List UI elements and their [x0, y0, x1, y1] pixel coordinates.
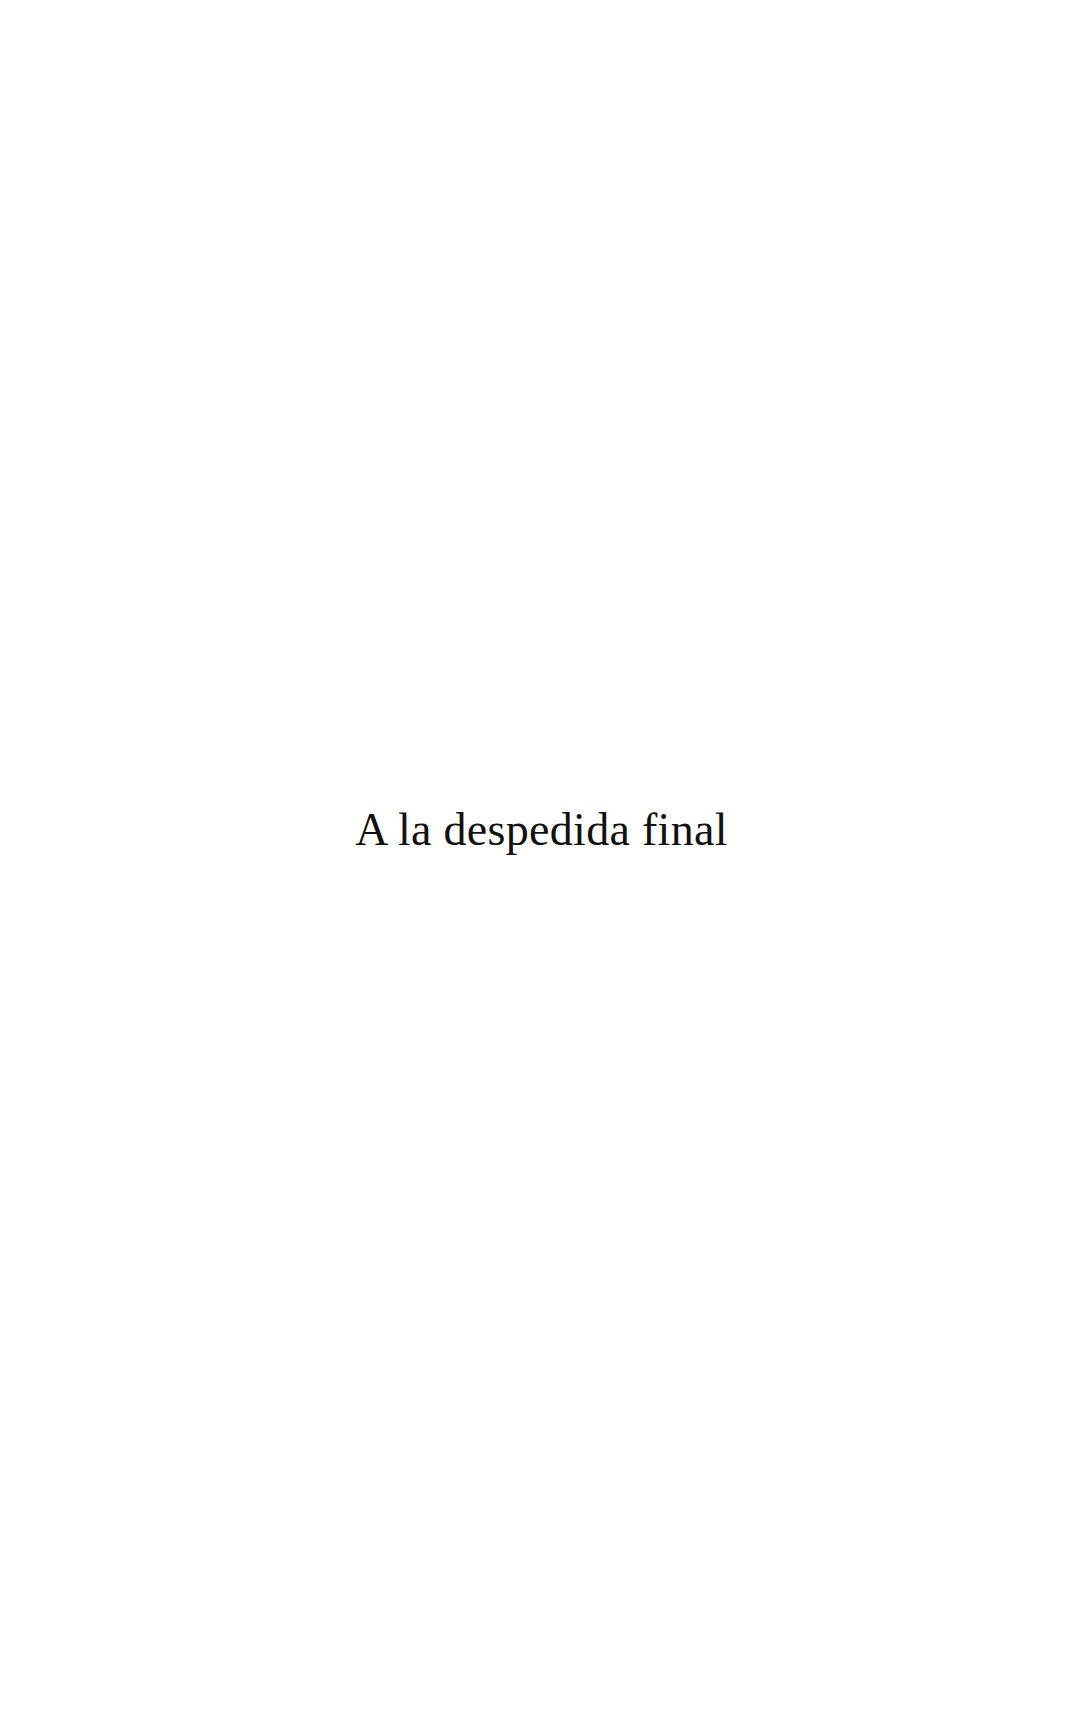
section-title: A la despedida final [0, 800, 1083, 860]
book-page: A la despedida final [0, 0, 1083, 1721]
